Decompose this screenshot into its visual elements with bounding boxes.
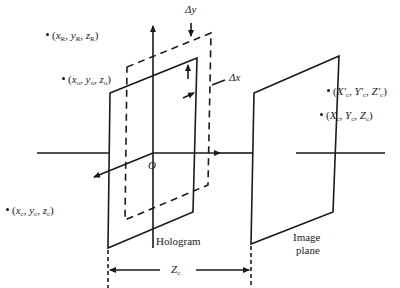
reconstruction-source-dot xyxy=(6,208,9,211)
origin-label: O xyxy=(148,160,156,171)
delta-y-label: Δy xyxy=(185,4,196,15)
image-point-label: (Xc, Yc, Zc) xyxy=(320,110,373,123)
delta-x-label: Δx xyxy=(229,72,240,83)
hologram-label: Hologram xyxy=(156,236,201,247)
object-point-label: (xo, yo, zo) xyxy=(62,74,111,87)
image-point-prime-dot xyxy=(327,89,330,92)
image-point-dot xyxy=(320,113,323,116)
image-point-prime-label: (X′c, Y′c, Z′c) xyxy=(327,86,387,99)
delta-x-arrow-left xyxy=(183,93,194,98)
image-plane-label-line1: Image xyxy=(293,232,320,243)
z-axis xyxy=(94,153,153,177)
reference-point-label: (xR, yR, zR) xyxy=(46,30,98,43)
reconstruction-source-label: (xc, yc, zc) xyxy=(6,205,54,218)
shifted-hologram-plane xyxy=(125,33,211,220)
object-point-dot xyxy=(62,77,65,80)
distance-zc-label: Zc xyxy=(171,264,180,277)
hologram-diagram: Δy Δx O (xR, yR, zR) (xo, yo, zo) (xc, y… xyxy=(0,0,400,288)
image-plane xyxy=(251,56,339,244)
reference-point-dot xyxy=(46,33,49,36)
image-plane-label-line2: plane xyxy=(296,245,320,256)
delta-x-leader xyxy=(212,80,225,85)
